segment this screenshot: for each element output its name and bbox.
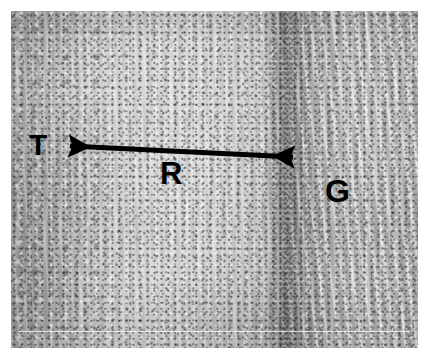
label-reactive-zone: R [160, 158, 182, 189]
coarse-stipple-layer [11, 11, 418, 348]
interface-hypercellularity [263, 11, 312, 348]
micrograph-image [11, 11, 418, 348]
scale-line [19, 331, 410, 332]
label-tumor: T [29, 130, 47, 160]
label-gliotic-zone: G [325, 175, 350, 207]
micrograph-figure: T R G [0, 0, 424, 357]
